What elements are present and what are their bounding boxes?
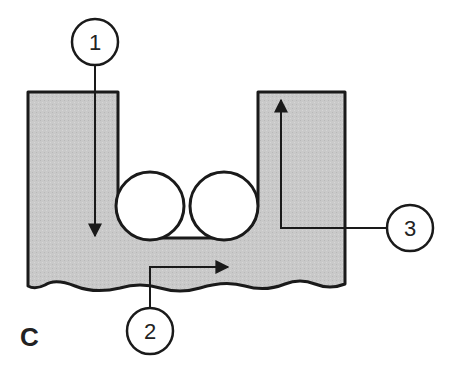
diagram-canvas: 1 2 3 C: [0, 0, 454, 370]
roller-left: [116, 172, 184, 240]
callout-2-label: 2: [144, 319, 156, 344]
callout-3-label: 3: [404, 216, 416, 241]
u-shaped-body: [28, 92, 345, 291]
callout-1-label: 1: [89, 30, 101, 55]
roller-right: [190, 172, 258, 240]
panel-label: C: [20, 322, 39, 352]
